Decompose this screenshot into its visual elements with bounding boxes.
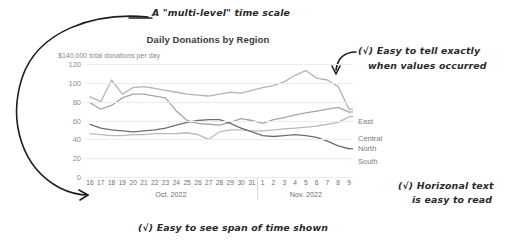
gridline	[86, 121, 353, 122]
gridline	[86, 177, 353, 178]
x-axis-tick-label: 1	[261, 179, 265, 186]
x-axis-tick-label: 29	[227, 179, 234, 186]
x-axis-tick-label: 22	[151, 179, 158, 186]
series-label-north: North	[358, 144, 376, 153]
x-axis-tick-label: 21	[140, 179, 147, 186]
annotation-horizontal-text-line1: (√) Horizonal text	[398, 180, 494, 191]
x-axis-tick-label: 30	[237, 179, 244, 186]
x-axis-tick-label: 19	[119, 179, 126, 186]
x-axis-tick-label: 3	[282, 179, 286, 186]
x-axis-tick-label: 6	[315, 179, 319, 186]
series-line-south	[90, 120, 349, 149]
annotation-horizontal-text-line2: is easy to read	[412, 194, 492, 205]
y-axis-tick-label: 100	[68, 78, 81, 87]
x-axis-tick-label: 16	[86, 179, 93, 186]
x-axis-tick-label: 9	[347, 179, 351, 186]
x-axis-tick-label: 2	[272, 179, 276, 186]
gridline	[86, 102, 353, 103]
y-axis-tick-label: 80	[73, 97, 81, 106]
plot-area: 020406080100120	[86, 64, 353, 177]
chart-container: Daily Donations by Region $140,000 total…	[58, 33, 358, 203]
y-axis-tick-label: 60	[73, 116, 81, 125]
x-axis: 1617181920212223242526272829303112345678…	[86, 179, 353, 203]
y-axis-tick-label: 20	[73, 154, 81, 163]
gridline	[86, 64, 353, 65]
x-axis-tick-label: 24	[173, 179, 180, 186]
annotation-values-occurred-line1: (√) Easy to tell exactly	[358, 45, 480, 56]
gridline	[86, 158, 353, 159]
gridline	[86, 139, 353, 140]
x-axis-tick-label: 25	[183, 179, 190, 186]
month-separator	[257, 177, 258, 199]
annotation-span-of-time: (√) Easy to see span of time shown	[138, 222, 328, 233]
y-axis-tick-label: 120	[68, 60, 81, 69]
series-label-central: Central	[358, 134, 382, 143]
x-axis-tick-label: 27	[205, 179, 212, 186]
x-axis-tick-label: 26	[194, 179, 201, 186]
y-axis-tick-label: 0	[77, 173, 81, 182]
x-axis-tick-label: 4	[293, 179, 297, 186]
month-group-label: Oct. 2022	[155, 190, 186, 199]
series-line-east	[90, 71, 349, 110]
series-label-south: South	[358, 157, 378, 166]
y-axis-tick-label: 40	[73, 135, 81, 144]
x-axis-tick-label: 28	[216, 179, 223, 186]
x-axis-tick-label: 31	[248, 179, 255, 186]
series-label-east: East	[358, 117, 373, 126]
month-group-label: Nov. 2022	[290, 190, 322, 199]
chart-title: Daily Donations by Region	[58, 34, 358, 45]
x-axis-tick-label: 17	[97, 179, 104, 186]
annotation-values-occurred-line2: when values occurred	[368, 60, 487, 71]
x-axis-tick-label: 23	[162, 179, 169, 186]
x-axis-tick-label: 5	[304, 179, 308, 186]
x-axis-tick-label: 18	[108, 179, 115, 186]
x-axis-tick-label: 7	[326, 179, 330, 186]
x-axis-tick-label: 20	[129, 179, 136, 186]
screenshot-root: Daily Donations by Region $140,000 total…	[0, 0, 523, 245]
annotation-multilevel-timescale: A "multi-level" time scale	[152, 7, 290, 18]
x-axis-tick-label: 8	[336, 179, 340, 186]
gridline	[86, 83, 353, 84]
chart-subtitle: $140,000 total donations per day	[58, 52, 160, 59]
